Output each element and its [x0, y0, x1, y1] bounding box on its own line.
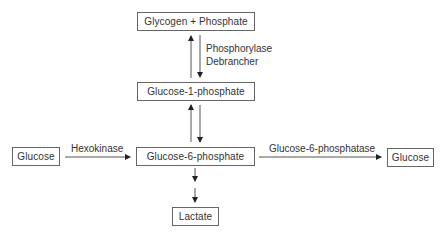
node-glucose-output: Glucose	[387, 148, 434, 167]
node-glucose-6-phosphate: Glucose-6-phosphate	[136, 147, 255, 166]
label-hexokinase: Hexokinase	[71, 143, 123, 155]
arrows-layer	[0, 0, 446, 240]
node-glucose-input: Glucose	[12, 147, 60, 166]
node-glucose-1-phosphate: Glucose-1-phosphate	[137, 82, 255, 101]
label-glucose-6-phosphatase: Glucose-6-phosphatase	[269, 143, 375, 155]
node-lactate: Lactate	[172, 207, 219, 226]
label-debrancher: Debrancher	[206, 56, 258, 68]
node-glycogen-phosphate: Glycogen + Phosphate	[137, 12, 255, 31]
label-phosphorylase: Phosphorylase	[206, 43, 272, 55]
